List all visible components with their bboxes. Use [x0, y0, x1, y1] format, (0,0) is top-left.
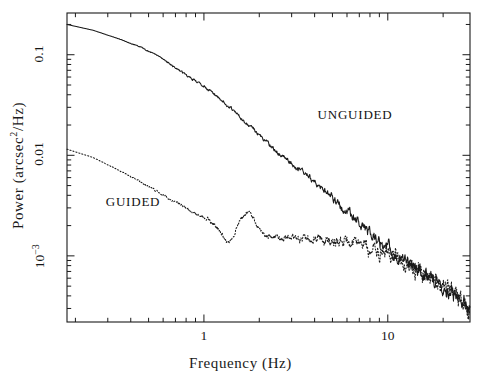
series-line-guided	[67, 149, 470, 319]
y-tick-label-text: 10	[32, 255, 47, 269]
plot-frame	[67, 13, 470, 322]
data-series	[67, 24, 470, 319]
y-tick-label: 0.1	[31, 26, 47, 82]
power-spectrum-figure: Power (arcsec2/Hz) Frequency (Hz) 1100.1…	[0, 0, 481, 384]
axis-ticks	[67, 13, 470, 322]
y-tick-label: 0.01	[31, 126, 47, 182]
unguided-label: UNGUIDED	[295, 107, 415, 123]
y-axis-title-exponent: 2	[8, 131, 19, 137]
y-axis-title-suffix: /Hz)	[10, 102, 26, 131]
y-axis-title-prefix: Power (arcsec	[10, 137, 26, 229]
x-tick-label: 10	[358, 328, 418, 344]
x-axis-title: Frequency (Hz)	[0, 355, 481, 372]
y-tick-label-exponent: −3	[30, 244, 41, 255]
y-tick-label-text: 0.1	[31, 45, 46, 62]
y-axis-title: Power (arcsec2/Hz)	[8, 31, 27, 301]
y-tick-label-text: 0.01	[31, 142, 46, 166]
guided-label: GUIDED	[73, 194, 193, 210]
plot-canvas	[0, 0, 481, 384]
y-tick-label: 10−3	[30, 228, 49, 284]
x-tick-label: 1	[174, 328, 234, 344]
